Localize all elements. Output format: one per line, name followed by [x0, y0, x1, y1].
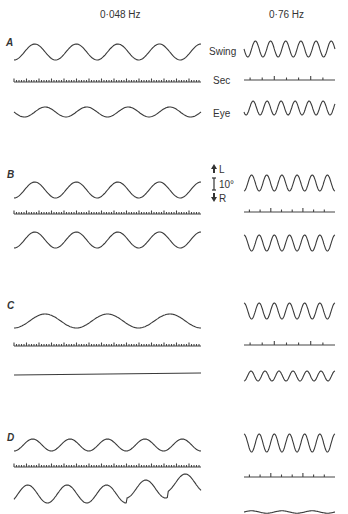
- column-title-low-frequency: 0·048 Hz: [100, 9, 141, 20]
- scale-bar: L 10° R: [211, 164, 234, 204]
- eye-trace-d-low: [14, 474, 201, 503]
- swing-trace-a-low: [14, 44, 201, 60]
- swing-trace-b-low: [14, 182, 201, 198]
- swing-trace-d-high: [244, 434, 335, 452]
- arrow-up-icon: [211, 164, 217, 173]
- eye-trace-a-low: [14, 107, 201, 117]
- eye-trace-b-low: [14, 232, 201, 248]
- sec-trace-d-high: [244, 473, 335, 477]
- sec-trace-a-low: [14, 79, 201, 83]
- eye-movement-figure: 0·048 Hz 0·76 Hz A B C D Swing Sec Eye L…: [0, 0, 348, 514]
- sec-trace-a-high: [244, 76, 335, 80]
- sec-trace-b-low: [14, 211, 201, 215]
- panel-label-c: C: [7, 300, 15, 311]
- eye-trace-a-high: [244, 101, 335, 115]
- scale-bracket-icon: [212, 178, 216, 190]
- swing-trace-c-low: [14, 314, 201, 328]
- sec-trace-d-low: [14, 464, 201, 468]
- swing-trace-a-high: [244, 41, 335, 57]
- scale-label-left: L: [219, 164, 225, 175]
- swing-trace-d-low: [14, 439, 201, 451]
- traces: [14, 41, 335, 513]
- row-label-sec: Sec: [213, 75, 230, 86]
- row-label-eye: Eye: [213, 108, 231, 119]
- eye-trace-c-low: [14, 373, 201, 375]
- swing-trace-b-high: [244, 175, 335, 191]
- sec-trace-c-low: [14, 343, 201, 347]
- arrow-down-icon: [211, 193, 217, 202]
- eye-trace-d-high: [244, 511, 335, 513]
- panel-label-d: D: [7, 432, 14, 443]
- scale-label-right: R: [219, 193, 226, 204]
- eye-trace-b-high: [244, 235, 335, 251]
- swing-trace-c-high: [244, 303, 335, 319]
- sec-trace-c-high: [244, 341, 335, 345]
- panel-label-a: A: [5, 37, 13, 48]
- sec-trace-b-high: [244, 208, 335, 212]
- column-title-high-frequency: 0·76 Hz: [269, 9, 304, 20]
- scale-label-degrees: 10°: [219, 179, 234, 190]
- panel-label-b: B: [7, 169, 14, 180]
- eye-trace-c-high: [244, 371, 335, 381]
- row-label-swing: Swing: [209, 46, 236, 57]
